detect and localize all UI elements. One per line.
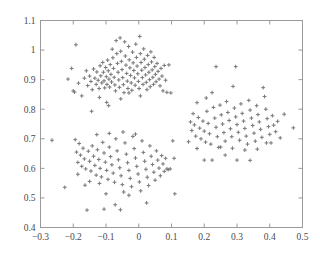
plot-canvas: 0.40.50.60.70.80.911.1 −0.3−0.2−0.100.10… bbox=[0, 0, 320, 253]
x-tick-label: 0.1 bbox=[166, 232, 178, 242]
x-axis-tick-labels: −0.3−0.2−0.100.10.20.30.40.5 bbox=[32, 232, 309, 242]
y-tick-label: 1 bbox=[31, 45, 36, 55]
y-tick-label: 0.8 bbox=[24, 105, 36, 115]
figure-background bbox=[0, 0, 320, 253]
scatter-plot-figure: 0.40.50.60.70.80.911.1 −0.3−0.2−0.100.10… bbox=[0, 0, 320, 253]
x-tick-label: 0.2 bbox=[198, 232, 210, 242]
y-tick-label: 0.9 bbox=[24, 75, 36, 85]
x-tick-label: 0.3 bbox=[231, 232, 243, 242]
y-tick-label: 0.6 bbox=[24, 164, 36, 174]
y-tick-label: 0.7 bbox=[24, 134, 36, 144]
x-tick-label: −0.3 bbox=[32, 232, 49, 242]
x-tick-label: −0.1 bbox=[97, 232, 114, 242]
x-tick-label: 0.5 bbox=[297, 232, 309, 242]
y-tick-label: 1.1 bbox=[24, 16, 36, 26]
x-tick-label: 0.4 bbox=[264, 232, 276, 242]
y-tick-label: 0.5 bbox=[24, 193, 36, 203]
x-tick-label: 0 bbox=[136, 232, 141, 242]
x-tick-label: −0.2 bbox=[65, 232, 82, 242]
